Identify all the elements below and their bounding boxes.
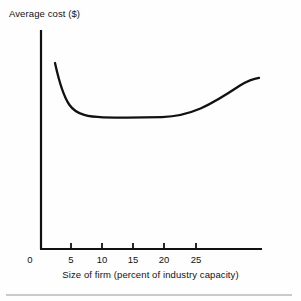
x-tick-label-25: 25 bbox=[191, 254, 202, 265]
x-tick-label-20: 20 bbox=[159, 254, 170, 265]
y-axis-title: Average cost ($) bbox=[9, 8, 80, 20]
x-tick-label-5: 5 bbox=[68, 254, 73, 265]
x-tick-label-15: 15 bbox=[128, 254, 139, 265]
x-tick-label-10: 10 bbox=[97, 254, 108, 265]
average-cost-curve-figure: Average cost ($) Size of firm (percent o… bbox=[0, 0, 301, 301]
chart-plot-area bbox=[0, 0, 301, 301]
x-axis-title: Size of firm (percent of industry capaci… bbox=[0, 269, 301, 281]
x-axis-origin-label: 0 bbox=[27, 254, 32, 265]
average-cost-curve-line bbox=[55, 63, 259, 118]
